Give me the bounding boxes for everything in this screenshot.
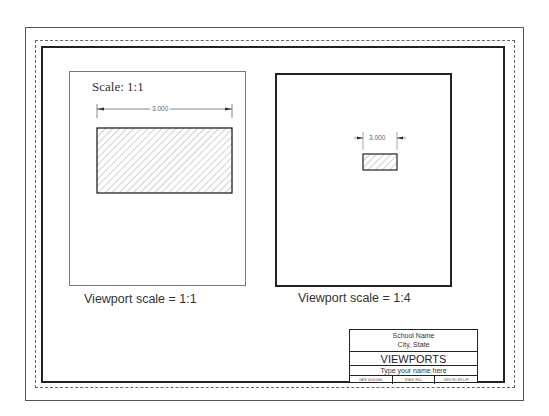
drawing-number-field: DWG. NO. EX-0-0P [435, 376, 477, 384]
city-state: City, State [350, 341, 477, 350]
dimension-text-1-1: 3.000 [150, 105, 170, 112]
student-name-field[interactable]: Type your name here [350, 366, 477, 376]
hatched-rectangle-1-1 [97, 128, 232, 193]
drawing-title: VIEWPORTS [350, 352, 477, 366]
viewport-caption-1-1: Viewport scale = 1:1 [84, 292, 197, 306]
title-block-school: School Name City, State [350, 330, 477, 352]
scale-field: SCALE: FULL [393, 376, 436, 384]
title-block: School Name City, State VIEWPORTS Type y… [349, 329, 478, 383]
date-field: DATE: 00-00-0000 [350, 376, 393, 384]
viewport-caption-1-4: Viewport scale = 1:4 [298, 291, 411, 305]
title-block-info-row: DATE: 00-00-0000 SCALE: FULL DWG. NO. EX… [350, 376, 477, 384]
viewport-1-4[interactable] [275, 73, 452, 287]
school-name: School Name [350, 332, 477, 341]
